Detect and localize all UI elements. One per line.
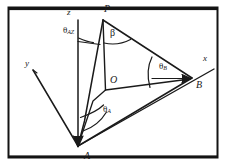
axis-label-z: z: [67, 8, 71, 17]
point-label-A: A: [84, 151, 90, 161]
theta-subscript-az: AZ: [67, 29, 74, 35]
angle-label-theta-a: θA: [103, 105, 111, 114]
theta-subscript-a: A: [107, 108, 110, 114]
axis-label-y: y: [25, 59, 29, 68]
point-label-O: O: [110, 75, 117, 85]
angle-label-beta: β: [110, 28, 115, 38]
axis-label-x: x: [203, 54, 207, 63]
theta-subscript-b: B: [163, 65, 166, 71]
figure-container: z y x P O A B θAZ β θB θA: [0, 0, 230, 168]
point-label-P: P: [104, 4, 110, 14]
angle-label-theta-az: θAZ: [63, 26, 74, 35]
point-label-B: B: [196, 80, 202, 90]
angle-label-theta-b: θB: [159, 62, 167, 71]
beta-glyph: β: [110, 27, 115, 38]
